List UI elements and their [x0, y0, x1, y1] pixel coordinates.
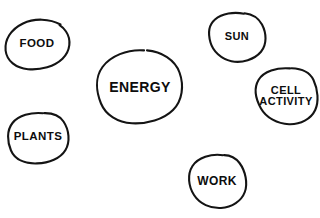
bubble-outline-work — [189, 155, 246, 208]
bubble-outline-food — [5, 20, 69, 70]
bubble-outline-sun — [209, 13, 265, 62]
concept-diagram-canvas: FOOD SUN ENERGY CELL ACTIVITY PLANTS WOR… — [0, 0, 320, 218]
bubble-outline-energy — [97, 50, 182, 123]
bubble-outline-cell-activity — [256, 68, 318, 124]
bubble-outlines-layer — [0, 0, 320, 218]
bubble-outline-plants — [8, 113, 68, 163]
